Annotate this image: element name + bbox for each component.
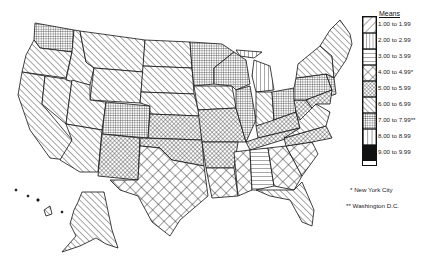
legend-label: 1.00 to 1.99 (378, 20, 411, 27)
footnote-new-york-city: * New York City (350, 186, 393, 193)
state-alaska (62, 192, 118, 252)
state-iowa (194, 86, 236, 110)
legend-pattern-swatches (363, 17, 376, 161)
state-colorado (102, 102, 150, 138)
legend-label: 8.00 to 8.99 (378, 132, 411, 139)
state-kansas (148, 114, 202, 140)
legend-label: 2.00 to 2.99 (378, 36, 411, 43)
state-wyoming (90, 68, 143, 103)
state-new-mexico (98, 134, 140, 180)
legend-label: 7.00 to 7.99** (378, 116, 416, 123)
legend-label: 4.00 to 4.99* (378, 68, 413, 75)
state-hawaii (44, 206, 52, 216)
legend-label: 5.00 to 5.99 (378, 84, 411, 91)
legend-swatches (362, 16, 377, 166)
state-arkansas (202, 142, 238, 168)
legend-label: 6.00 to 6.99 (378, 100, 411, 107)
state-north-dakota (143, 40, 192, 68)
state-south-dakota (141, 66, 194, 94)
legend-title: Means (379, 10, 400, 17)
state-louisiana (206, 168, 238, 198)
legend-label: 3.00 to 3.99 (378, 52, 411, 59)
legend-label: 9.00 to 9.99 (378, 148, 411, 155)
footnote-washington-dc: ** Washington D.C. (346, 202, 399, 209)
